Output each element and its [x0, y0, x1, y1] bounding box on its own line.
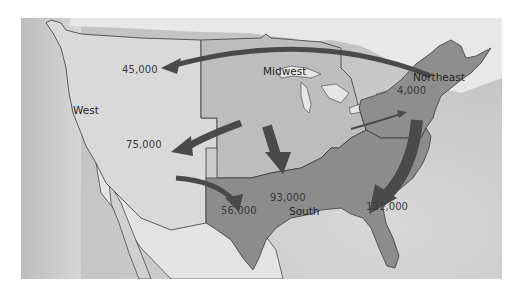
- flow-value-midwest-northeast: 4,000: [397, 86, 426, 96]
- migration-map: West Midwest South Northeast South 45,00…: [21, 18, 502, 279]
- flow-value-northeast-south: 121,000: [366, 202, 408, 212]
- flow-value-midwest-south: 93,000: [270, 193, 306, 203]
- region-label-south: South: [289, 206, 320, 217]
- flow-value-west-south: 56,000: [221, 206, 257, 216]
- region-label-midwest: Midwest: [263, 66, 306, 77]
- flow-value-midwest-west: 75,000: [126, 140, 162, 150]
- region-label-northeast: Northeast: [413, 72, 465, 83]
- map-canvas: [21, 18, 502, 279]
- region-label-west: West: [73, 105, 99, 116]
- flow-value-northeast-west: 45,000: [122, 65, 158, 75]
